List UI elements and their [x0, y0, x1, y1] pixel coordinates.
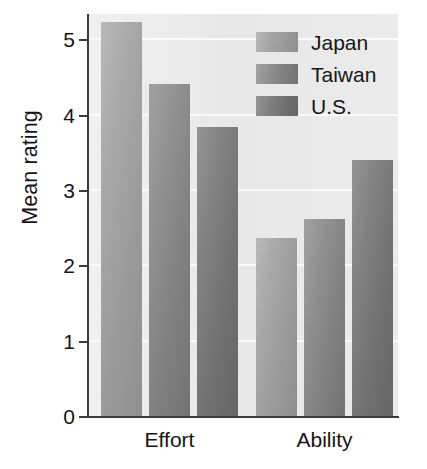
x-axis-spine [87, 416, 399, 418]
bar-us-effort [197, 127, 238, 417]
bar-japan-effort [101, 22, 142, 417]
y-tick-mark-2 [79, 265, 87, 267]
bar-japan-ability [256, 238, 297, 417]
y-tick-mark-1 [79, 341, 87, 343]
bar-us-ability [352, 160, 393, 417]
y-tick-label-1: 1 [47, 331, 75, 352]
y-tick-label-5: 5 [47, 29, 75, 50]
y-axis-spine [87, 14, 89, 418]
y-tick-label-0: 0 [47, 406, 75, 427]
y-tick-mark-3 [79, 190, 87, 192]
y-tick-mark-5 [79, 39, 87, 41]
legend-label-us: U.S. [311, 96, 352, 117]
x-axis-label-ability: Ability [265, 428, 385, 452]
legend-swatch-taiwan-icon [256, 64, 298, 84]
bar-taiwan-effort [149, 84, 190, 417]
legend-item-taiwan: Taiwan [256, 58, 376, 90]
legend-label-japan: Japan [311, 32, 368, 53]
legend-label-taiwan: Taiwan [311, 64, 376, 85]
y-tick-mark-4 [79, 115, 87, 117]
y-axis-title: Mean rating [18, 68, 43, 268]
x-axis-label-effort: Effort [110, 428, 230, 452]
y-tick-label-2: 2 [47, 255, 75, 276]
legend-swatch-japan-icon [256, 32, 298, 52]
legend: Japan Taiwan U.S. [256, 26, 376, 122]
bar-taiwan-ability [304, 219, 345, 417]
bar-chart-figure: Mean rating 012345 EffortAbility Japan T… [0, 0, 427, 469]
y-tick-label-4: 4 [47, 105, 75, 126]
y-tick-mark-0 [79, 416, 87, 418]
legend-item-us: U.S. [256, 90, 376, 122]
y-tick-label-3: 3 [47, 180, 75, 201]
legend-swatch-us-icon [256, 96, 298, 116]
legend-item-japan: Japan [256, 26, 376, 58]
